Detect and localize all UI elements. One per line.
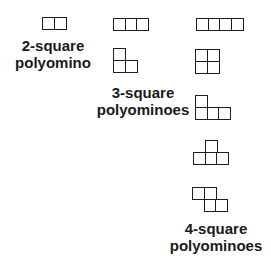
square-cell [216,152,229,165]
label-4-square-line2: polyominoes [170,237,263,254]
square-cell [136,18,149,31]
label-3-square: 3-square polyominoes [97,84,190,118]
square-cell [125,60,138,73]
label-4-square: 4-square polyominoes [170,220,263,254]
label-2-square: 2-square polyomino [15,37,91,71]
square-cell [215,199,228,212]
square-cell [218,107,231,120]
label-2-square-line2: polyomino [15,54,91,71]
square-cell [54,17,67,30]
square-cell [231,18,244,31]
label-3-square-line2: polyominoes [97,101,190,118]
label-3-square-line1: 3-square [97,84,190,101]
label-4-square-line1: 4-square [170,220,263,237]
label-2-square-line1: 2-square [15,37,91,54]
square-cell [207,61,220,74]
